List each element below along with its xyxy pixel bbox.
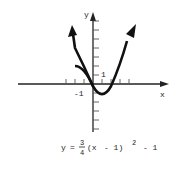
y-axis-label: y [84,10,89,19]
curve-right-arrow-icon [126,24,136,38]
svg-text:3: 3 [80,139,84,147]
parabola-curve-left [73,34,93,86]
curve-left-arrow-icon [68,25,77,37]
svg-text:y: y [61,143,66,152]
equation-caption: y = 3 4 (x - 1) 2 - 1 [61,139,158,157]
tick-label-x-neg1: -1 [74,89,84,98]
svg-text:4: 4 [80,149,84,157]
x-axis-arrow-icon [160,81,169,87]
x-axis-label: x [160,90,165,99]
svg-text:=: = [70,143,75,152]
x-ticks [66,79,129,84]
svg-text:- 1: - 1 [143,143,158,152]
svg-text:2: 2 [132,139,136,147]
svg-text:- 1): - 1) [104,143,123,152]
svg-text:(x: (x [87,143,97,152]
parabola-curve [75,41,127,94]
y-axis-arrow-icon [90,12,96,21]
tick-label-y-1: 1 [101,70,106,79]
y-ticks [93,21,99,129]
parabola-graph: y x 1 -1 y = 3 4 (x - 1) 2 - 1 [0,0,180,171]
